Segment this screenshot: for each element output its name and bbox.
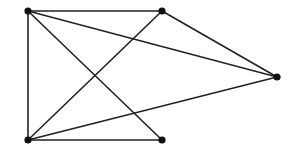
edges-group	[28, 11, 277, 140]
node-A	[24, 7, 31, 14]
node-E	[158, 136, 165, 143]
node-C	[273, 73, 280, 80]
node-B	[158, 7, 165, 14]
node-D	[24, 136, 31, 143]
nodes-group	[24, 7, 280, 143]
graph-diagram	[0, 0, 299, 156]
edge-B-C	[162, 11, 277, 77]
